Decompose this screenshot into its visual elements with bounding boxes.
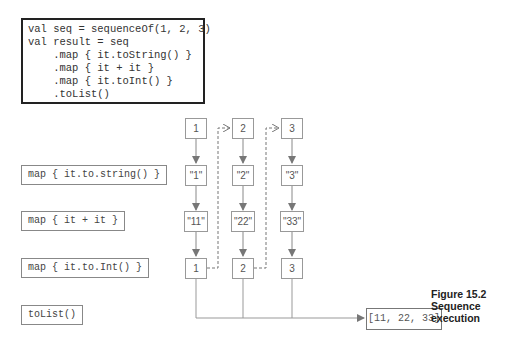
doubled-cell: "33" <box>280 211 304 232</box>
dashed-return-1 <box>207 128 230 268</box>
to-int-cell: 3 <box>281 258 303 279</box>
to-string-cell: "3" <box>281 165 303 186</box>
dashed-return-2 <box>254 128 279 268</box>
to-string-cell: "2" <box>232 165 254 186</box>
input-cell: 2 <box>232 118 254 139</box>
doubled-cell: "11" <box>184 211 208 232</box>
to-int-cell: 2 <box>232 258 254 279</box>
doubled-cell: "22" <box>231 211 255 232</box>
figure-caption: Figure 15.2 Sequence execution <box>431 288 486 324</box>
input-cell: 3 <box>281 118 303 139</box>
to-int-cell: 1 <box>185 258 207 279</box>
to-string-cell: "1" <box>185 165 207 186</box>
caption-title-line1: Sequence <box>431 300 486 312</box>
caption-figure-number: Figure 15.2 <box>431 288 486 300</box>
caption-title-line2: execution <box>431 312 486 324</box>
input-cell: 1 <box>185 118 207 139</box>
